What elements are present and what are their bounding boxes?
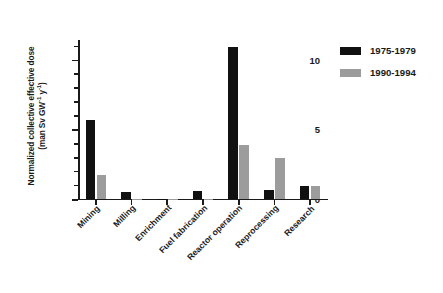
y-axis-unit-sup2: -1 bbox=[36, 85, 42, 90]
bar bbox=[121, 192, 131, 199]
bar bbox=[239, 145, 249, 199]
chart-legend: 1975-19791990-1994 bbox=[340, 42, 440, 86]
x-axis-label: Mining bbox=[75, 203, 102, 230]
y-axis-unit-mid: y bbox=[36, 90, 46, 97]
legend-item: 1990-1994 bbox=[340, 64, 440, 81]
legend-swatch bbox=[340, 69, 361, 77]
legend-swatch bbox=[340, 47, 361, 55]
bar bbox=[97, 175, 107, 199]
plot-area: 0510 bbox=[78, 40, 328, 200]
y-axis-unit-suffix: ) bbox=[36, 82, 46, 85]
bar bbox=[264, 190, 274, 199]
bar bbox=[193, 191, 203, 199]
legend-item: 1975-1979 bbox=[340, 42, 440, 59]
bar bbox=[300, 186, 310, 199]
bar bbox=[311, 186, 321, 199]
y-axis-unit-sup1: -1 bbox=[36, 97, 42, 102]
bar bbox=[275, 158, 285, 199]
legend-label: 1975-1979 bbox=[370, 45, 416, 56]
x-axis-category-labels: MiningMillingEnrichmentFuel fabricationR… bbox=[78, 200, 358, 292]
legend-label: 1990-1994 bbox=[370, 67, 416, 78]
y-axis-title-line2: (man Sv GW-1 y-1) bbox=[36, 82, 47, 150]
bar bbox=[86, 120, 96, 200]
x-axis-label: Milling bbox=[111, 203, 137, 229]
x-axis-label: Research bbox=[282, 203, 316, 237]
y-axis-title-line1: Normalized collective effective dose bbox=[26, 47, 36, 186]
bar bbox=[228, 47, 238, 199]
y-axis-title: Normalized collective effective dose (ma… bbox=[18, 28, 54, 204]
chart-figure: Normalized collective effective dose (ma… bbox=[0, 0, 443, 293]
y-axis-unit-prefix: (man Sv GW bbox=[36, 102, 46, 150]
bar-series-container bbox=[78, 40, 328, 199]
